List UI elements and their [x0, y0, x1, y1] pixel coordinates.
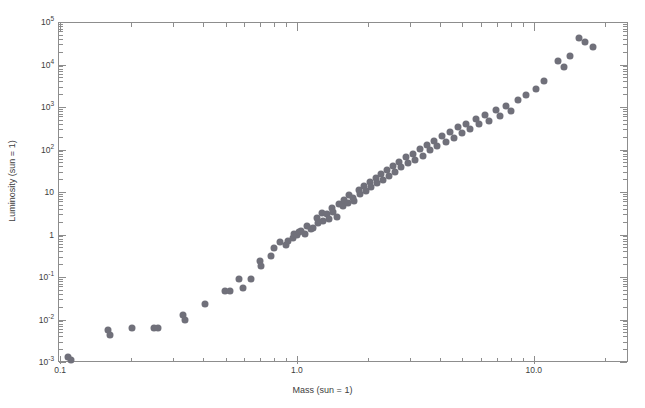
data-point — [226, 287, 233, 294]
y-tick-minor — [623, 156, 627, 157]
y-tick-minor — [623, 35, 627, 36]
data-point — [405, 160, 412, 167]
x-tick-minor-top — [226, 23, 227, 27]
y-tick-minor — [59, 114, 63, 115]
y-tick-major — [620, 65, 627, 66]
x-axis-tick-labels: 0.11.010.0 — [58, 366, 628, 380]
x-tick-label: 1.0 — [291, 366, 303, 375]
y-tick-minor — [623, 124, 627, 125]
y-tick-minor — [623, 66, 627, 67]
x-tick-minor-bottom — [173, 358, 174, 362]
y-tick-label: 104 — [41, 60, 54, 69]
x-tick-minor-bottom — [203, 358, 204, 362]
y-tick-major — [620, 277, 627, 278]
data-point — [523, 92, 530, 99]
y-tick-label: 10-2 — [39, 315, 54, 324]
y-tick-minor — [59, 307, 63, 308]
y-tick-label: 105 — [41, 18, 54, 27]
x-tick-minor-bottom — [368, 358, 369, 362]
y-tick-minor — [623, 286, 627, 287]
y-tick-major — [59, 235, 66, 236]
x-tick-minor-top — [523, 23, 524, 27]
y-tick-minor — [623, 151, 627, 152]
y-tick-minor — [623, 321, 627, 322]
y-tick-minor — [59, 201, 63, 202]
y-tick-minor — [623, 214, 627, 215]
data-point — [129, 325, 136, 332]
y-tick-minor — [59, 156, 63, 157]
data-point — [385, 172, 392, 179]
x-tick-minor-bottom — [497, 358, 498, 362]
y-tick-minor — [623, 162, 627, 163]
y-tick-minor — [59, 179, 63, 180]
y-tick-label: 102 — [41, 145, 54, 154]
y-tick-minor — [623, 137, 627, 138]
y-tick-minor — [623, 77, 627, 78]
data-point — [496, 112, 503, 119]
y-tick-minor — [59, 74, 63, 75]
x-tick-minor-bottom — [440, 358, 441, 362]
data-point — [507, 108, 514, 115]
x-tick-minor-bottom — [131, 358, 132, 362]
y-tick-minor — [59, 279, 63, 280]
x-tick-major — [534, 356, 535, 364]
y-tick-minor — [623, 349, 627, 350]
y-tick-minor — [59, 239, 63, 240]
y-tick-minor — [59, 69, 63, 70]
y-tick-label: 10-3 — [39, 358, 54, 367]
y-tick-minor — [623, 247, 627, 248]
y-tick-minor — [623, 129, 627, 130]
axis-right-spine — [627, 22, 628, 362]
y-tick-minor — [59, 324, 63, 325]
x-tick-major — [534, 23, 535, 31]
y-tick-minor — [623, 166, 627, 167]
y-tick-minor — [59, 326, 63, 327]
data-point — [582, 39, 589, 46]
y-axis-title: Luminosity (sun = 1) — [7, 106, 17, 256]
y-tick-minor — [623, 196, 627, 197]
y-tick-minor — [623, 294, 627, 295]
data-point — [442, 139, 449, 146]
plot-area — [58, 22, 628, 362]
axis-bottom-spine — [58, 361, 628, 362]
y-tick-minor — [59, 116, 63, 117]
y-tick-minor — [59, 205, 63, 206]
y-tick-minor — [623, 26, 627, 27]
x-axis-title: Mass (sun = 1) — [0, 385, 645, 395]
x-tick-minor-top — [173, 23, 174, 27]
y-tick-label: 10-1 — [39, 273, 54, 282]
y-tick-minor — [59, 281, 63, 282]
x-tick-minor-top — [410, 23, 411, 27]
y-tick-minor — [59, 299, 63, 300]
data-point — [433, 143, 440, 150]
y-tick-minor — [623, 39, 627, 40]
y-tick-minor — [59, 321, 63, 322]
y-tick-minor — [623, 114, 627, 115]
y-tick-minor — [623, 307, 627, 308]
y-tick-minor — [59, 196, 63, 197]
y-tick-minor — [623, 120, 627, 121]
x-tick-label: 0.1 — [54, 366, 66, 375]
x-tick-minor-bottom — [410, 358, 411, 362]
data-point — [476, 121, 483, 128]
y-tick-minor — [623, 205, 627, 206]
x-tick-major — [297, 23, 298, 31]
y-tick-minor — [623, 324, 627, 325]
y-tick-minor — [59, 241, 63, 242]
y-tick-minor — [623, 299, 627, 300]
y-tick-minor — [623, 24, 627, 25]
y-tick-minor — [623, 116, 627, 117]
data-point — [540, 77, 547, 84]
y-tick-minor — [59, 257, 63, 258]
y-tick-minor — [59, 214, 63, 215]
y-tick-major — [59, 107, 66, 108]
y-tick-major — [620, 362, 627, 363]
y-tick-minor — [59, 336, 63, 337]
data-point — [351, 198, 358, 205]
y-tick-minor — [623, 44, 627, 45]
y-tick-minor — [59, 52, 63, 53]
y-tick-major — [620, 235, 627, 236]
y-tick-minor — [623, 239, 627, 240]
data-point — [333, 213, 340, 220]
data-point — [236, 276, 243, 283]
